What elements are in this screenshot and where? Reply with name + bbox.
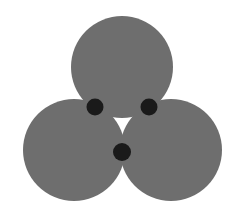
- bottom-right-circle: [120, 99, 222, 201]
- dot-bottom: [113, 143, 131, 161]
- dot-upper-right: [141, 99, 158, 116]
- bottom-left-circle: [23, 99, 125, 201]
- figure-canvas: [0, 0, 242, 216]
- three-circles-figure: [0, 0, 242, 216]
- dot-upper-left: [87, 99, 104, 116]
